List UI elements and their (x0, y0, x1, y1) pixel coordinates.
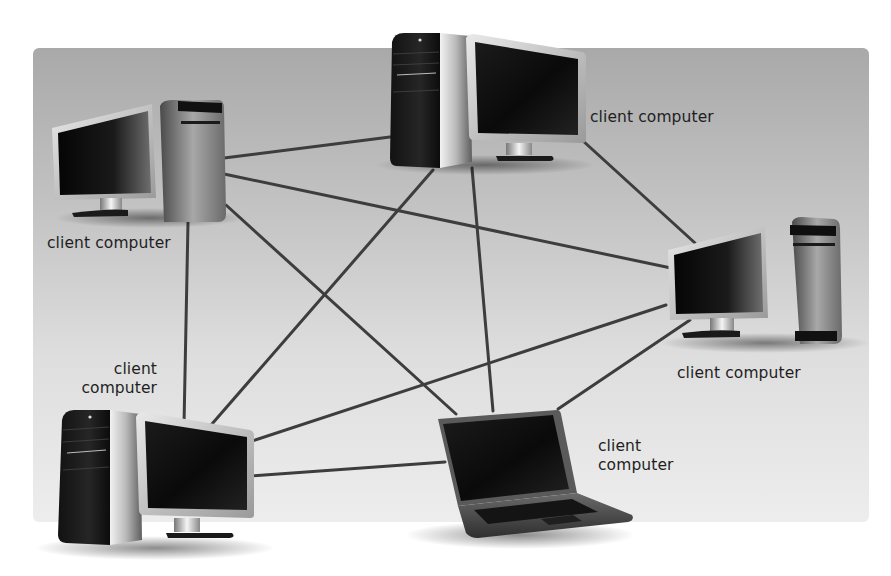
network-diagram: client computer client computer client c… (0, 0, 891, 576)
label-laptop-computer: client computer (598, 437, 674, 475)
label-line: client computer (590, 108, 714, 127)
link-topleft-laptop (226, 205, 456, 414)
label-line-2: computer (76, 379, 157, 398)
link-bottomleft-laptop (249, 462, 445, 476)
desktop-computer-icon-top-center (375, 33, 595, 175)
label-line-2: computer (598, 456, 674, 475)
link-topleft-topcenter (224, 137, 390, 158)
label-right-computer: client computer (677, 364, 801, 383)
network-canvas (0, 0, 891, 576)
label-line-1: client (76, 360, 157, 379)
label-top-center-computer: client computer (590, 108, 714, 127)
link-topcenter-right (582, 140, 695, 243)
desktop-computer-icon-bottom-left (35, 410, 275, 560)
laptop-computer-icon (405, 410, 635, 549)
desktop-computer-icon-top-left (52, 100, 245, 228)
desktop-computer-icon-right (660, 217, 870, 353)
label-bottom-left-computer: client computer (76, 360, 157, 398)
label-line: client computer (47, 234, 171, 253)
link-topleft-bottomleft (184, 222, 188, 425)
label-line-1: client (598, 437, 674, 456)
link-topleft-right (224, 174, 671, 268)
label-line: client computer (677, 364, 801, 383)
link-topcenter-laptop (472, 168, 493, 411)
label-top-left-computer: client computer (47, 234, 171, 253)
